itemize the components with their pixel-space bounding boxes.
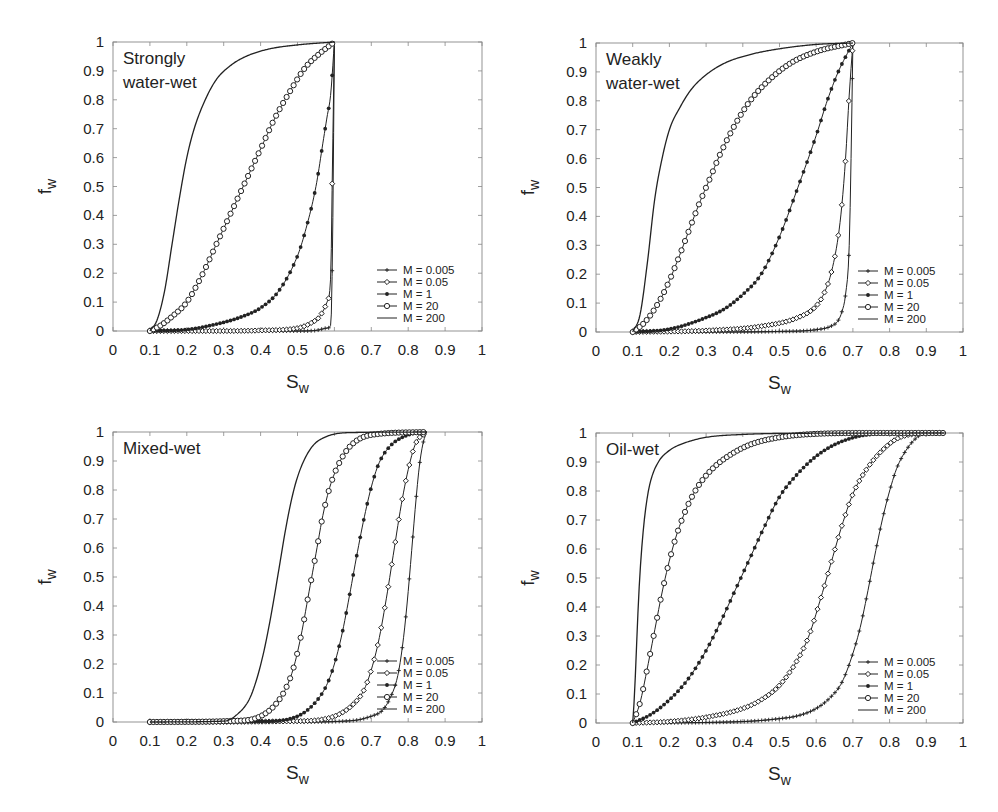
svg-text:M = 0.05: M = 0.05 [403, 276, 448, 288]
x-axis-title: Sw [768, 372, 792, 397]
y-tick-label: 0.2 [566, 265, 587, 282]
legend: M = 0.005M = 0.05M = 1M = 20M = 200 [858, 656, 935, 716]
y-tick-label: 0.1 [566, 685, 587, 702]
y-tick-label: 0.7 [83, 120, 104, 137]
chart-panel-weakly-water-wet: 00.10.20.30.40.50.60.70.80.9100.10.20.30… [517, 34, 967, 397]
x-tick-label: 0.7 [842, 733, 863, 750]
x-tick-label: 0 [592, 733, 600, 750]
series-0_005 [148, 432, 427, 724]
x-tick-label: 0.1 [622, 733, 643, 750]
x-tick-label: 0.2 [659, 342, 680, 359]
series-1 [148, 431, 427, 724]
x-tick-label: 0.2 [659, 733, 680, 750]
y-axis-title: fw [517, 569, 542, 585]
y-tick-label: 0.3 [566, 236, 587, 253]
svg-text:M = 200: M = 200 [403, 312, 445, 324]
fractional-flow-figure: 00.10.20.30.40.50.60.70.80.9100.10.20.30… [0, 0, 998, 812]
legend-item: M = 20 [377, 691, 438, 703]
y-tick-label: 0.6 [566, 540, 587, 557]
panel-title: water-wet [122, 73, 197, 92]
y-tick-label: 0.9 [83, 452, 104, 469]
legend-item: M = 1 [377, 288, 432, 300]
x-tick-label: 0.6 [324, 732, 345, 749]
svg-text:M = 20: M = 20 [403, 691, 438, 703]
series-20 [147, 429, 426, 724]
y-tick-label: 1 [579, 424, 587, 441]
svg-text:M = 0.05: M = 0.05 [884, 668, 929, 680]
y-tick-label: 0.7 [83, 510, 104, 527]
legend-item: M = 0.05 [377, 276, 448, 288]
x-tick-label: 0.7 [361, 732, 382, 749]
y-tick-label: 0.4 [566, 598, 587, 615]
x-tick-label: 1 [959, 733, 967, 750]
legend-item: M = 1 [858, 680, 913, 692]
x-tick-label: 0 [109, 732, 117, 749]
figure-canvas: 00.10.20.30.40.50.60.70.80.9100.10.20.30… [0, 0, 998, 812]
legend: M = 0.005M = 0.05M = 1M = 20M = 200 [858, 265, 935, 325]
y-tick-label: 0.5 [83, 568, 104, 585]
y-tick-label: 0.9 [566, 63, 587, 80]
x-tick-label: 0.4 [732, 733, 753, 750]
y-tick-label: 0.8 [83, 481, 104, 498]
x-tick-label: 0.7 [842, 342, 863, 359]
x-axis-title: Sw [286, 762, 310, 787]
legend-item: M = 200 [858, 313, 926, 325]
y-tick-label: 1 [96, 423, 104, 440]
y-tick-label: 0.1 [83, 684, 104, 701]
panel-title: water-wet [605, 74, 680, 93]
x-axis-title: Sw [768, 763, 792, 788]
legend-item: M = 200 [858, 704, 926, 716]
legend-item: M = 20 [858, 301, 919, 313]
legend-item: M = 0.05 [858, 668, 929, 680]
x-tick-label: 0 [592, 342, 600, 359]
svg-text:M = 20: M = 20 [884, 692, 919, 704]
y-tick-label: 0.8 [566, 482, 587, 499]
legend-item: M = 0.005 [377, 264, 454, 276]
y-tick-label: 0.8 [83, 91, 104, 108]
y-tick-label: 0.6 [83, 539, 104, 556]
y-tick-label: 0.7 [566, 121, 587, 138]
x-tick-label: 0.6 [806, 733, 827, 750]
legend-item: M = 0.005 [858, 656, 935, 668]
chart-panel-oil-wet: 00.10.20.30.40.50.60.70.80.9100.10.20.30… [517, 424, 967, 788]
legend-item: M = 200 [377, 703, 445, 715]
svg-text:M = 1: M = 1 [884, 289, 913, 301]
x-tick-label: 0.4 [250, 341, 271, 358]
x-tick-label: 0.2 [176, 732, 197, 749]
y-tick-label: 0.3 [566, 627, 587, 644]
y-tick-label: 0.7 [566, 511, 587, 528]
y-tick-label: 0.4 [83, 206, 104, 223]
legend: M = 0.005M = 0.05M = 1M = 20M = 200 [377, 655, 454, 715]
legend-item: M = 200 [377, 312, 445, 324]
series-0_05 [147, 432, 426, 725]
y-tick-label: 0.4 [566, 207, 587, 224]
svg-text:M = 20: M = 20 [403, 300, 438, 312]
legend-item: M = 0.005 [377, 655, 454, 667]
y-axis-title: fw [517, 179, 542, 195]
svg-text:M = 20: M = 20 [884, 301, 919, 313]
y-tick-label: 0.6 [566, 150, 587, 167]
y-tick-label: 0.1 [83, 293, 104, 310]
y-tick-label: 0.4 [83, 597, 104, 614]
x-tick-label: 0.6 [806, 342, 827, 359]
x-axis-title: Sw [286, 371, 310, 396]
panel-title: Weakly [606, 50, 662, 69]
x-tick-label: 0.4 [732, 342, 753, 359]
panel-title: Strongly [123, 49, 186, 68]
panel-title: Mixed-wet [123, 439, 201, 458]
y-tick-label: 0.9 [566, 453, 587, 470]
legend-item: M = 0.05 [377, 667, 448, 679]
chart-panel-strongly-water-wet: 00.10.20.30.40.50.60.70.80.9100.10.20.30… [34, 33, 486, 396]
y-tick-label: 0.5 [566, 179, 587, 196]
legend-item: M = 0.05 [858, 277, 929, 289]
y-tick-label: 1 [579, 34, 587, 51]
svg-text:M = 1: M = 1 [884, 680, 913, 692]
legend-item: M = 1 [377, 679, 432, 691]
y-tick-label: 0 [579, 714, 587, 731]
y-tick-label: 1 [96, 33, 104, 50]
svg-text:M = 0.05: M = 0.05 [884, 277, 929, 289]
y-tick-label: 0.5 [83, 178, 104, 195]
x-tick-label: 0.6 [324, 341, 345, 358]
svg-text:M = 0.005: M = 0.005 [403, 264, 454, 276]
y-tick-label: 0 [579, 323, 587, 340]
